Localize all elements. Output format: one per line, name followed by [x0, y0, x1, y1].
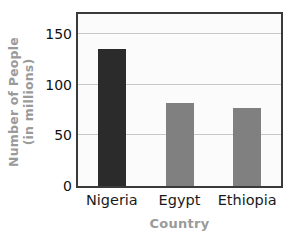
gridline	[78, 33, 281, 34]
y-axis-title-line-1: Number of People	[6, 37, 21, 167]
x-axis-tick-label: Nigeria	[86, 190, 138, 210]
bar	[233, 108, 261, 186]
plot-area	[76, 12, 283, 188]
y-axis-title: Number of People (in millions)	[2, 12, 40, 192]
x-axis-title: Country	[76, 216, 283, 231]
x-axis-tick-label: Ethiopia	[218, 190, 277, 210]
y-axis-tick-label: 100	[38, 78, 72, 92]
bar	[166, 103, 194, 186]
bar	[98, 49, 126, 186]
y-axis-tick-labels: 050100150	[38, 0, 72, 251]
y-axis-tick-label: 0	[38, 179, 72, 193]
y-axis-title-line-2: (in millions)	[21, 59, 36, 146]
y-axis-tick-label: 150	[38, 27, 72, 41]
x-axis-tick-label: Egypt	[159, 190, 201, 210]
bar-chart: Number of People (in millions) 050100150…	[0, 0, 293, 251]
y-axis-tick-label: 50	[38, 128, 72, 142]
x-axis-tick-labels: NigeriaEgyptEthiopia	[76, 190, 283, 212]
